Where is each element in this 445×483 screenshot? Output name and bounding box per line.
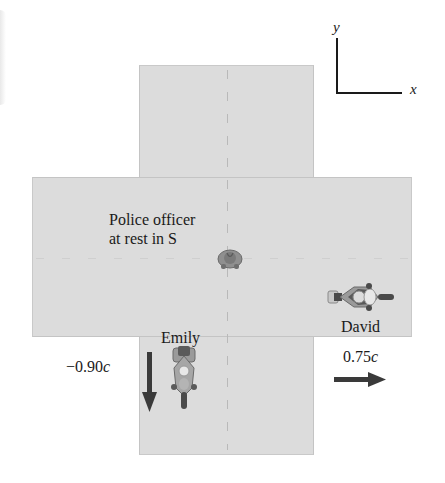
david-velocity-value: 0.75 — [343, 348, 371, 365]
emily-velocity-unit: c — [103, 358, 110, 375]
coordinate-axes: y x — [330, 25, 440, 105]
x-axis-label: x — [410, 81, 417, 98]
officer-label: Police officer at rest in S — [109, 210, 195, 248]
police-officer-icon — [215, 248, 245, 272]
david-velocity-arrow-icon — [334, 372, 386, 388]
y-axis-label: y — [333, 19, 340, 36]
emily-motorcycle-icon — [170, 346, 198, 410]
david-velocity-unit: c — [371, 348, 378, 365]
axes-lines-icon — [330, 25, 440, 105]
emily-velocity-value: −0.90 — [66, 358, 103, 375]
david-label: David — [341, 317, 380, 336]
emily-velocity-arrow-icon — [142, 352, 158, 412]
left-edge-artifact — [0, 10, 6, 105]
emily-velocity: −0.90c — [66, 358, 110, 376]
officer-label-line2: at rest in S — [109, 229, 195, 248]
officer-label-line1: Police officer — [109, 210, 195, 229]
david-motorcycle-icon — [326, 282, 398, 312]
emily-label: Emily — [161, 328, 200, 347]
david-velocity: 0.75c — [343, 348, 378, 366]
